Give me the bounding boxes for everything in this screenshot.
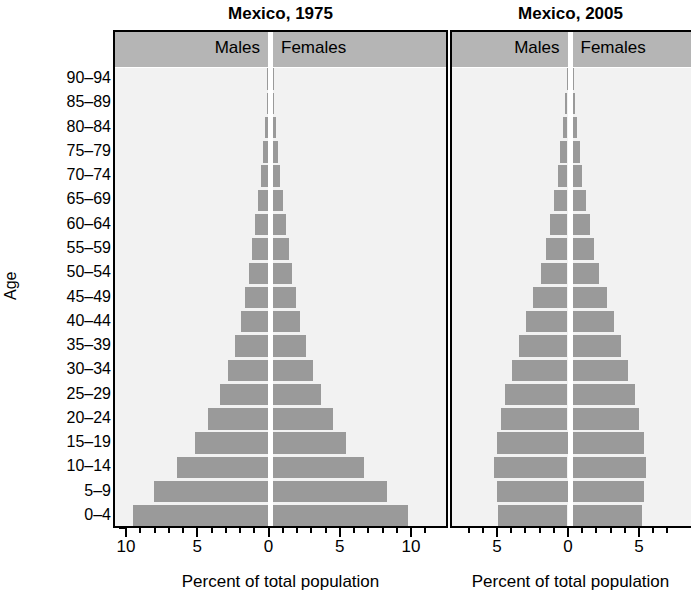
- bar-females: [573, 432, 644, 453]
- pyramid-row: [115, 505, 446, 526]
- x-tick-major: [268, 528, 270, 537]
- bar-females: [573, 457, 647, 478]
- x-tick-minor: [154, 528, 156, 533]
- bar-females: [573, 214, 590, 235]
- pyramid-row: [115, 141, 446, 162]
- bar-females: [573, 117, 577, 138]
- bar-males: [494, 457, 568, 478]
- x-tick-minor: [253, 528, 255, 533]
- x-tick-minor: [553, 528, 555, 533]
- pyramid-row: [115, 384, 446, 405]
- bar-females: [573, 311, 614, 332]
- age-label: 80–84: [19, 118, 111, 136]
- x-tick-label: 0: [249, 537, 289, 557]
- pyramid-row: [452, 93, 691, 114]
- pyramid-row: [115, 263, 446, 284]
- bar-males: [267, 93, 268, 114]
- bar-females: [273, 287, 296, 308]
- pyramid-row: [452, 263, 691, 284]
- bar-females: [273, 481, 387, 502]
- pyramid-row: [452, 360, 691, 381]
- bar-males: [541, 263, 568, 284]
- x-tick-label: 10: [106, 537, 146, 557]
- x-tick-minor: [239, 528, 241, 533]
- x-tick-minor: [310, 528, 312, 533]
- bar-females: [573, 384, 635, 405]
- bar-males: [255, 214, 268, 235]
- x-tick-label: 5: [177, 537, 217, 557]
- bar-females: [273, 238, 289, 259]
- age-label: 75–79: [19, 142, 111, 160]
- bar-females: [273, 360, 313, 381]
- age-label: 35–39: [19, 336, 111, 354]
- pyramid-row: [452, 384, 691, 405]
- x-tick-minor: [610, 528, 612, 533]
- pyramid-row: [452, 432, 691, 453]
- x-tick-label: 5: [477, 537, 517, 557]
- pyramid-row: [115, 68, 446, 89]
- age-label: 20–24: [19, 409, 111, 427]
- x-tick-major: [339, 528, 341, 537]
- bar-males: [177, 457, 268, 478]
- pyramid-row: [115, 360, 446, 381]
- bar-males: [558, 165, 568, 186]
- age-label: 0–4: [19, 506, 111, 524]
- bar-males: [512, 360, 567, 381]
- bar-males: [241, 311, 268, 332]
- pyramid-row: [452, 214, 691, 235]
- legend-band-left: Males Females: [115, 32, 446, 68]
- bar-males: [261, 165, 268, 186]
- x-tick-label: 5: [619, 537, 659, 557]
- plot-area-left: [115, 67, 446, 526]
- bar-females: [573, 408, 640, 429]
- x-tick-major: [638, 528, 640, 537]
- chart-title-left: Mexico, 1975: [113, 4, 448, 24]
- bar-females: [573, 263, 600, 284]
- bar-males: [498, 505, 568, 526]
- x-tick-minor: [510, 528, 512, 533]
- pyramid-row: [452, 311, 691, 332]
- pyramid-row: [452, 238, 691, 259]
- bar-females: [273, 214, 286, 235]
- legend-females-right: Females: [581, 38, 691, 58]
- pyramid-row: [115, 481, 446, 502]
- bar-females: [573, 505, 643, 526]
- x-tick-minor: [396, 528, 398, 533]
- x-tick-minor: [139, 528, 141, 533]
- x-tick-minor: [296, 528, 298, 533]
- age-label: 90–94: [19, 69, 111, 87]
- bar-females: [573, 360, 628, 381]
- pyramid-row: [115, 165, 446, 186]
- x-tick-minor: [353, 528, 355, 533]
- x-tick-major: [125, 528, 127, 537]
- bar-females: [273, 190, 283, 211]
- bar-males: [550, 214, 567, 235]
- pyramid-row: [452, 190, 691, 211]
- pyramid-row: [452, 117, 691, 138]
- x-tick-minor: [382, 528, 384, 533]
- pyramid-row: [115, 287, 446, 308]
- bar-males: [245, 287, 268, 308]
- bar-females: [573, 68, 574, 89]
- chart-panel-2005: Males Females: [450, 30, 691, 528]
- bar-males: [519, 335, 567, 356]
- bar-females: [273, 311, 300, 332]
- pyramid-row: [115, 93, 446, 114]
- pyramid-row: [115, 311, 446, 332]
- pyramid-row: [452, 505, 691, 526]
- x-tick-minor: [581, 528, 583, 533]
- population-pyramid-figure: Mexico, 1975 Mexico, 2005 Age 90–9485–89…: [0, 0, 691, 611]
- bar-males: [546, 238, 567, 259]
- x-axis-title-left: Percent of total population: [113, 572, 448, 592]
- pyramid-row: [452, 68, 691, 89]
- age-label: 70–74: [19, 166, 111, 184]
- bar-females: [273, 384, 321, 405]
- x-tick-minor: [182, 528, 184, 533]
- x-tick-minor: [624, 528, 626, 533]
- bar-females: [273, 165, 280, 186]
- bar-females: [573, 481, 644, 502]
- pyramid-row: [115, 432, 446, 453]
- pyramid-row: [452, 335, 691, 356]
- bar-males: [258, 190, 268, 211]
- x-tick-minor: [652, 528, 654, 533]
